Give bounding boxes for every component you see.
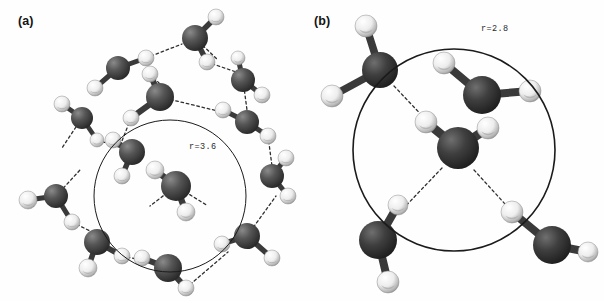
hydrogen-atom <box>501 201 523 223</box>
hydrogen-atom <box>134 250 150 266</box>
hydrogen-atom <box>142 66 158 82</box>
hydrogen-atom <box>90 133 104 147</box>
hydrogen-atom <box>114 168 130 184</box>
hydrogen-atom <box>254 87 270 103</box>
oxygen-atom <box>182 25 208 51</box>
oxygen-atom <box>231 68 255 92</box>
oxygen-atom <box>161 171 191 201</box>
hydrogen-atom <box>215 102 231 118</box>
hydrogen-atom <box>278 150 294 166</box>
hydrogen-atom <box>64 214 80 230</box>
oxygen-atom <box>106 56 130 80</box>
hydrogen-atom <box>388 195 408 215</box>
oxygen-atom <box>437 127 479 169</box>
oxygen-atom <box>44 184 68 208</box>
oxygen-atom <box>234 223 260 249</box>
oxygen-atom <box>260 164 284 188</box>
hydrogen-atom <box>87 80 103 96</box>
hydrogen-atom <box>19 191 37 209</box>
hydrogen-atom <box>214 236 230 252</box>
oxygen-atom <box>533 226 571 264</box>
hydrogen-atom <box>578 242 598 262</box>
panel-a-label: (a) <box>18 14 34 28</box>
hydrogen-atom <box>199 54 215 70</box>
hydrogen-atom <box>208 9 224 25</box>
hydrogen-atom <box>477 117 499 139</box>
oxygen-atom <box>119 139 145 165</box>
hydrogen-atom <box>177 203 195 221</box>
hydrogen-atom <box>54 96 70 112</box>
molecular-scene <box>0 0 604 301</box>
hydrogen-atom <box>415 111 437 133</box>
oxygen-atom <box>463 76 501 114</box>
hydrogen-atom <box>260 128 276 144</box>
oxygen-atom <box>71 107 93 129</box>
hydrogen-atom <box>178 280 194 296</box>
panel-b-label: (b) <box>314 14 330 28</box>
hydrogen-bond <box>186 252 228 288</box>
oxygen-atom <box>146 83 174 111</box>
molecular-figure: (a) (b) r=3.6 r=2.8 <box>0 0 604 301</box>
panel-b-radius-label: r=2.8 <box>481 24 509 34</box>
hydrogen-atom <box>433 52 455 74</box>
hydrogen-atom <box>264 250 280 266</box>
hydrogen-atom <box>377 271 399 293</box>
hydrogen-atom <box>79 259 97 277</box>
hydrogen-atom <box>280 188 296 204</box>
oxygen-atom <box>359 221 397 259</box>
hydrogen-atom <box>355 15 377 37</box>
hydrogen-atom <box>146 161 164 179</box>
oxygen-atom <box>84 229 110 255</box>
oxygen-atom <box>235 110 259 134</box>
hydrogen-atom <box>231 51 245 65</box>
oxygen-atom <box>154 254 182 282</box>
hydrogen-atom <box>138 50 154 66</box>
hydrogen-atom <box>321 85 343 107</box>
panel-a-radius-label: r=3.6 <box>189 142 217 152</box>
hydrogen-atom <box>123 110 139 126</box>
